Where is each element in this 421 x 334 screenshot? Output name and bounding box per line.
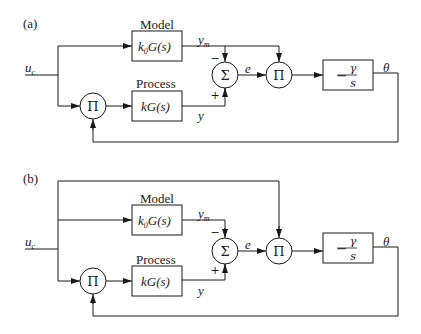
integrator-den-a: s bbox=[350, 78, 356, 89]
output-label-a: θ bbox=[383, 61, 389, 74]
error-label-b: e bbox=[245, 238, 251, 251]
input-label-a: uc bbox=[25, 61, 35, 77]
model-output-a: ym bbox=[198, 33, 210, 49]
product-node-a: Π bbox=[273, 69, 284, 82]
panel-label-b: (b) bbox=[23, 172, 38, 185]
model-output-b: ym bbox=[198, 207, 210, 223]
process-output-b: y bbox=[198, 284, 204, 297]
integrator-num-b: γ bbox=[350, 236, 357, 247]
integrator-num-a: γ bbox=[350, 63, 357, 74]
sum-plus-b: + bbox=[210, 265, 219, 276]
sum-minus-a: − bbox=[210, 53, 219, 64]
sum-node-a: Σ bbox=[220, 69, 229, 82]
model-tf-a: k0G(s) bbox=[138, 40, 171, 56]
sum-plus-a: + bbox=[210, 90, 219, 101]
model-title-b: Model bbox=[140, 192, 174, 205]
panel-label-a: (a) bbox=[23, 17, 37, 30]
input-label-sub: c bbox=[32, 68, 36, 77]
output-label-b: θ bbox=[383, 235, 389, 248]
process-title-a: Process bbox=[136, 77, 176, 90]
sum-node-b: Σ bbox=[220, 245, 229, 258]
model-tf-b: k0G(s) bbox=[138, 214, 171, 230]
model-output-sub: m bbox=[204, 40, 210, 49]
process-tf-b: kG(s) bbox=[141, 275, 170, 288]
model-output-sub: m bbox=[204, 214, 210, 223]
integrator-sign-b: − bbox=[337, 242, 348, 255]
model-transfer: G(s) bbox=[148, 213, 171, 228]
input-label-b: uc bbox=[25, 235, 35, 251]
process-tf-a: kG(s) bbox=[141, 100, 170, 113]
model-title-a: Model bbox=[140, 18, 174, 31]
model-transfer: G(s) bbox=[148, 39, 171, 54]
product-node-input-b: Π bbox=[87, 275, 98, 288]
process-title-b: Process bbox=[136, 253, 176, 266]
integrator-den-b: s bbox=[350, 251, 356, 262]
process-output-a: y bbox=[198, 109, 204, 122]
sum-minus-b: − bbox=[210, 227, 219, 238]
product-node-b: Π bbox=[273, 245, 284, 258]
product-node-input-a: Π bbox=[87, 100, 98, 113]
integrator-sign-a: − bbox=[337, 69, 348, 82]
diagram-canvas bbox=[0, 0, 421, 334]
error-label-a: e bbox=[245, 62, 251, 75]
diagram-a bbox=[25, 31, 398, 142]
input-label-sub: c bbox=[32, 242, 36, 251]
